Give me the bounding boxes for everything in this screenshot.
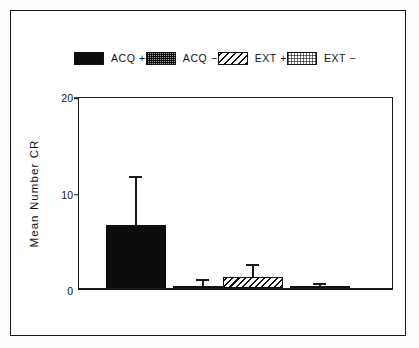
legend-swatch-hatch-icon <box>218 52 248 65</box>
error-bar-cap <box>246 264 259 266</box>
legend-swatch-solid-icon <box>74 52 104 65</box>
legend-item-ext-plus: EXT + <box>218 52 287 65</box>
legend-swatch-stipple-icon <box>146 52 176 65</box>
error-bar-stem <box>202 281 204 286</box>
plot-area: 20 10 0 <box>78 97 393 290</box>
figure-root: ACQ + ACQ − EXT + EXT − Mean Number CR 2… <box>0 0 419 348</box>
legend-label: ACQ − <box>183 52 218 64</box>
y-axis-title: Mean Number CR <box>26 97 42 290</box>
y-tick-label-0: 0 <box>67 285 73 297</box>
error-bar-stem <box>252 266 254 278</box>
bars-layer <box>79 98 392 288</box>
legend-label: ACQ + <box>111 52 146 64</box>
legend-item-ext-minus: EXT − <box>287 52 356 65</box>
error-bar-cap <box>129 176 142 178</box>
legend-label: EXT − <box>324 52 356 64</box>
legend-swatch-dots-icon <box>287 52 317 65</box>
error-bar-cap <box>313 283 326 285</box>
error-bar-cap <box>196 279 209 281</box>
legend-item-acq-plus: ACQ + <box>74 52 146 65</box>
bar <box>223 277 283 288</box>
legend-label: EXT + <box>255 52 287 64</box>
error-bar-stem <box>319 285 321 286</box>
y-tick-label-10: 10 <box>61 189 73 201</box>
chart-legend: ACQ + ACQ − EXT + EXT − <box>74 48 344 68</box>
y-tick-label-20: 20 <box>61 92 73 104</box>
legend-item-acq-minus: ACQ − <box>146 52 218 65</box>
bar <box>106 225 166 288</box>
error-bar-stem <box>135 178 137 225</box>
